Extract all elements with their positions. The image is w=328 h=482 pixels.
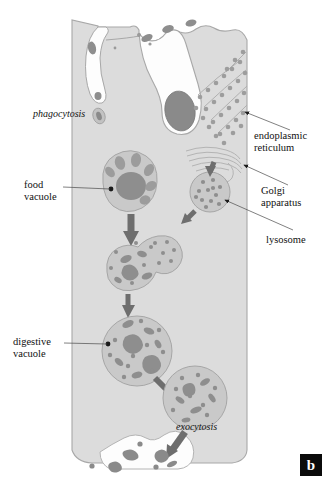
label-endoplasmic-reticulum: endoplasmic reticulum xyxy=(254,130,307,153)
leader-endoplasmic-reticulum xyxy=(245,112,290,130)
lysosome-vesicle xyxy=(190,172,230,212)
label-phagocytosis: phagocytosis xyxy=(33,108,85,120)
label-lysosome: lysosome xyxy=(266,234,306,246)
digestive-vacuole xyxy=(102,316,172,386)
phagocytosis-figure: phagocytosis food vacuole digestive vacu… xyxy=(0,0,328,482)
label-food-vacuole: food vacuole xyxy=(24,179,57,202)
label-exocytosis: exocytosis xyxy=(176,421,217,433)
label-digestive-vacuole: digestive vacuole xyxy=(13,336,51,359)
panel-letter-badge: b xyxy=(300,454,322,476)
leader-golgi-apparatus xyxy=(244,165,288,185)
label-golgi-apparatus: Golgi apparatus xyxy=(261,185,301,208)
